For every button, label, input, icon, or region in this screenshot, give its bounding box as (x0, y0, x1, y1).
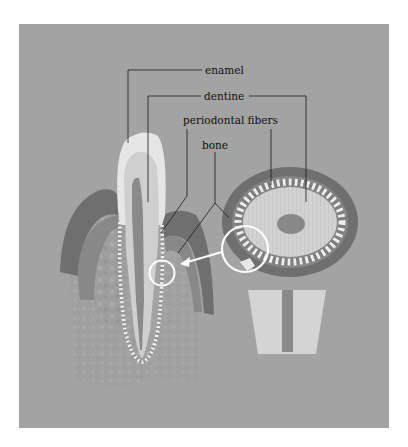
label-bone: bone (202, 139, 228, 151)
label-dentine: dentine (204, 90, 244, 102)
root-canal-stump (282, 290, 293, 352)
pulp-core (277, 214, 305, 234)
tooth-anatomy-diagram: enamel dentine periodontal fibers bone (0, 0, 408, 447)
label-periodontal-fibers: periodontal fibers (183, 114, 278, 126)
label-enamel: enamel (205, 64, 244, 76)
